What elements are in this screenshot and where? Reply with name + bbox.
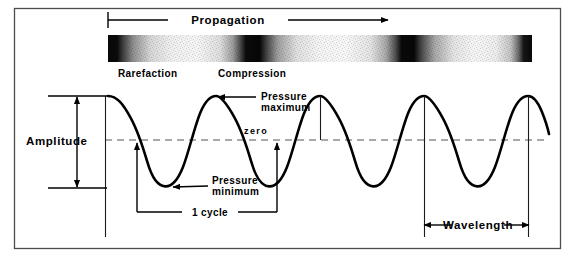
pressure-minimum-label-line1: Pressure: [212, 175, 258, 186]
figure-canvas: Propagation Rarefaction Compression Pres…: [0, 0, 575, 261]
one-cycle-label: 1 cycle: [192, 207, 228, 218]
pressure-minimum-leader: [173, 186, 208, 187]
zero-label: zero: [244, 126, 268, 136]
pressure-wave-curve: [108, 96, 549, 186]
wavelength-label: Wavelength: [443, 219, 513, 231]
pressure-maximum-label-line1: Pressure: [261, 91, 307, 102]
compression-label: Compression: [218, 68, 286, 79]
band-grain-overlay: [108, 35, 532, 62]
pressure-minimum-label-line2: minimum: [212, 186, 259, 197]
amplitude-label: Amplitude: [26, 135, 88, 147]
propagation-label: Propagation: [191, 14, 265, 26]
pressure-maximum-label-line2: maximum: [261, 102, 311, 113]
pressure-minimum-callout: [173, 186, 208, 187]
compression-rarefaction-band: [108, 35, 532, 62]
sound-wave-figure: Propagation Rarefaction Compression Pres…: [0, 0, 575, 261]
rarefaction-label: Rarefaction: [118, 68, 177, 79]
